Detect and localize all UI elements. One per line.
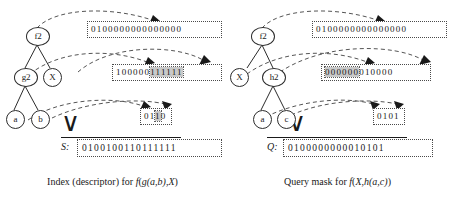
bit-segment: 01	[377, 111, 388, 121]
tree-node-label: X	[49, 72, 55, 82]
or-rule	[267, 137, 407, 138]
bit-box-mid: 000000010000	[321, 64, 431, 81]
tree-node-label: X	[236, 72, 242, 82]
caption-prefix: Index (descriptor) for	[47, 176, 136, 187]
or-rule	[61, 137, 181, 138]
bit-segment: 0	[161, 111, 167, 121]
bit-segment-shaded: 000000	[325, 67, 359, 77]
caption-args: (a,c)	[369, 176, 388, 187]
bit-box-root: 0100000000000000	[87, 21, 222, 38]
bit-box-leaf: 0110	[140, 108, 172, 125]
caption-close: )	[388, 176, 391, 187]
tree-node-child1[interactable]: g2	[14, 68, 38, 87]
result-bits: 0100100110111111	[82, 143, 177, 153]
panel-caption: Query mask for f(X,h(a,c))	[225, 176, 450, 188]
bit-segment: 100000	[116, 67, 150, 77]
tree-node-leaf1[interactable]: a	[253, 110, 272, 129]
tree-node-label: h2	[270, 72, 279, 82]
tree-node-leaf2[interactable]: c	[277, 110, 296, 129]
bit-segment: 0100000000000000	[91, 24, 182, 34]
tree-node-label: b	[38, 114, 42, 124]
result-label: Q:	[267, 141, 278, 152]
tree-node-label: a	[261, 114, 265, 124]
tree-node-label: c	[285, 114, 289, 124]
tree-node-child1[interactable]: X	[230, 68, 249, 87]
result-label: S:	[61, 141, 69, 152]
tree-node-root[interactable]: f2	[26, 27, 50, 46]
bit-box-root: 0100000000000000	[312, 21, 447, 38]
bit-segment: 0100000000000000	[316, 24, 407, 34]
tree-node-label: a	[14, 114, 18, 124]
result-bit-row: 0100000000010101	[283, 139, 433, 157]
panel-query: f2 X h2 a c 0100000000000000 00000001000…	[225, 0, 450, 198]
panel-index: f2 g2 X a b 0100000000000000 10000011111…	[0, 0, 225, 198]
result-bits: 0100000000010101	[288, 143, 385, 153]
tree-node-leaf1[interactable]: a	[6, 110, 25, 129]
bit-segment: 010000	[359, 67, 393, 77]
bit-box-mid: 100000111111	[112, 64, 222, 81]
tree-node-label: f2	[34, 31, 41, 41]
bit-segment: 1	[394, 111, 400, 121]
caption-prefix: Query mask for	[284, 176, 349, 187]
tree-node-leaf2[interactable]: b	[31, 110, 50, 129]
caption-close: )	[175, 176, 178, 187]
bit-box-leaf: 0101	[373, 108, 405, 125]
caption-args: (a,b)	[147, 176, 166, 187]
tree-node-label: f2	[259, 31, 266, 41]
or-symbol: ∨	[61, 110, 80, 136]
tree-node-root[interactable]: f2	[251, 27, 275, 46]
bit-segment: 01	[144, 111, 155, 121]
tree-node-label: g2	[22, 72, 31, 82]
result-bit-row: 0100100110111111	[77, 139, 222, 157]
figure-root: f2 g2 X a b 0100000000000000 10000011111…	[0, 0, 450, 198]
panel-caption: Index (descriptor) for f(g(a,b),X)	[0, 176, 225, 188]
tree-node-child2[interactable]: X	[43, 68, 62, 87]
tree-node-child2[interactable]: h2	[262, 68, 286, 87]
bit-segment-shaded: 111111	[150, 67, 183, 77]
